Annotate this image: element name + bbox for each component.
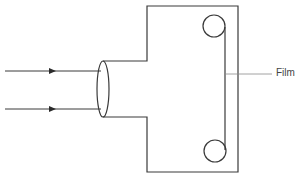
top-film-spool xyxy=(203,15,225,37)
arrow-right-icon xyxy=(49,68,56,74)
bottom-film-spool xyxy=(204,140,226,162)
camera-body xyxy=(103,6,238,172)
film-label: Film xyxy=(276,67,295,78)
camera-diagram xyxy=(0,0,300,175)
light-ray-top xyxy=(5,68,101,74)
light-ray-bottom xyxy=(5,106,101,112)
arrow-right-icon xyxy=(49,106,56,112)
